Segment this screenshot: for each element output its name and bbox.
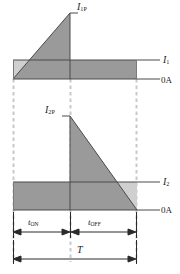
dim-toff-arrow-right [128, 229, 136, 235]
label-t-on: tON [28, 218, 39, 228]
label-t-off: tOFF [88, 218, 101, 228]
label-i2-peak: I2P [45, 105, 55, 116]
label-zero-amps-top: 0A [161, 76, 172, 85]
dimension-period [13, 240, 137, 264]
label-i1-peak: I1P [77, 2, 87, 13]
label-i1-average: I1 [163, 55, 169, 66]
label-i2-average: I2 [163, 177, 169, 188]
primary-current-waveform [13, 13, 160, 79]
i1-average-band-dark-right [70, 60, 137, 79]
i2-average-band-dark-left [13, 182, 70, 210]
dim-ton-arrow-right [62, 229, 70, 235]
dim-toff-arrow-left [71, 229, 79, 235]
waveform-svg [0, 0, 180, 274]
secondary-current-waveform [13, 116, 160, 210]
label-period: T [77, 245, 83, 255]
label-zero-amps-bottom: 0A [161, 206, 172, 215]
waveform-figure: I1P I1 0A I2P I2 0A tON tOFF T [0, 0, 180, 274]
dim-T-arrow-right [128, 256, 136, 262]
